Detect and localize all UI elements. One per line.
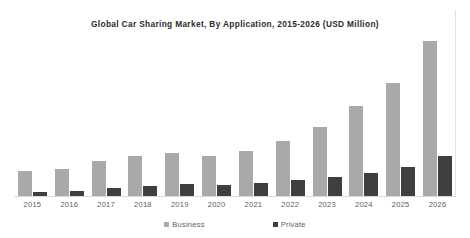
bar-business-2015[interactable] <box>18 171 32 196</box>
bar-business-2021[interactable] <box>239 151 253 196</box>
x-tick-label: 2019 <box>161 198 198 212</box>
bar-group-2018 <box>124 10 161 196</box>
bar-private-2022[interactable] <box>291 180 305 196</box>
x-tick-label: 2018 <box>124 198 161 212</box>
bar-private-2018[interactable] <box>143 186 157 196</box>
x-tick-label: 2024 <box>345 198 382 212</box>
bar-business-2026[interactable] <box>423 41 437 196</box>
bar-group-2023 <box>309 10 346 196</box>
bar-business-2020[interactable] <box>202 156 216 196</box>
bar-private-2025[interactable] <box>401 167 415 196</box>
bar-private-2020[interactable] <box>217 185 231 196</box>
legend-swatch-icon <box>164 222 169 227</box>
bar-business-2017[interactable] <box>92 161 106 196</box>
x-tick-label: 2021 <box>235 198 272 212</box>
plot-area <box>14 10 456 196</box>
legend-label: Business <box>172 220 204 229</box>
bar-business-2024[interactable] <box>349 106 363 196</box>
legend-swatch-icon <box>273 222 278 227</box>
bar-group-2024 <box>345 10 382 196</box>
x-tick-label: 2020 <box>198 198 235 212</box>
x-axis-line <box>14 196 456 197</box>
bar-business-2022[interactable] <box>276 141 290 196</box>
bar-business-2018[interactable] <box>128 156 142 196</box>
legend-label: Private <box>281 220 306 229</box>
bar-private-2021[interactable] <box>254 183 268 196</box>
bar-group-2020 <box>198 10 235 196</box>
x-tick-label: 2022 <box>272 198 309 212</box>
bar-business-2025[interactable] <box>386 83 400 196</box>
chart-container: Global Car Sharing Market, By Applicatio… <box>0 0 470 238</box>
bar-group-2017 <box>88 10 125 196</box>
bar-group-2025 <box>382 10 419 196</box>
bar-group-2015 <box>14 10 51 196</box>
bar-group-2021 <box>235 10 272 196</box>
x-tick-label: 2023 <box>309 198 346 212</box>
bar-group-2016 <box>51 10 88 196</box>
legend-item-private[interactable]: Private <box>273 220 306 229</box>
bar-private-2023[interactable] <box>328 177 342 196</box>
x-axis-labels: 2015 2016 2017 2018 2019 2020 2021 2022 … <box>14 198 456 212</box>
x-tick-label: 2015 <box>14 198 51 212</box>
bar-business-2023[interactable] <box>313 127 327 196</box>
bar-group-2026 <box>419 10 456 196</box>
bar-group-2022 <box>272 10 309 196</box>
bar-private-2017[interactable] <box>107 188 121 196</box>
x-tick-label: 2026 <box>419 198 456 212</box>
bar-private-2026[interactable] <box>438 156 452 196</box>
x-tick-label: 2016 <box>51 198 88 212</box>
legend-item-business[interactable]: Business <box>164 220 204 229</box>
bar-business-2019[interactable] <box>165 153 179 196</box>
bar-private-2019[interactable] <box>180 184 194 196</box>
bar-group-2019 <box>161 10 198 196</box>
bar-business-2016[interactable] <box>55 169 69 196</box>
x-tick-label: 2025 <box>382 198 419 212</box>
chart-legend: Business Private <box>0 220 470 229</box>
bar-private-2024[interactable] <box>364 173 378 196</box>
x-tick-label: 2017 <box>88 198 125 212</box>
